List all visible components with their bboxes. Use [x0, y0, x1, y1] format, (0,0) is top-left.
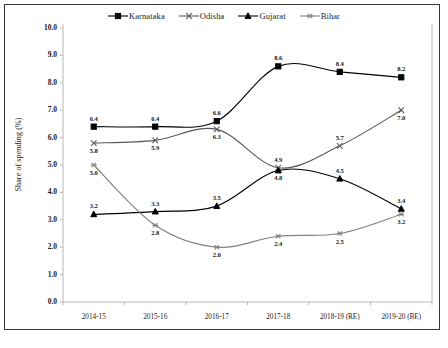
point-label-karnataka-3: 8.6 — [267, 54, 289, 61]
point-label-bihar-3: 2.4 — [267, 240, 289, 247]
y-tick-label: 9.0 — [23, 50, 57, 59]
y-tick-label: 10.0 — [23, 23, 57, 32]
data-point-odisha-5 — [398, 107, 404, 113]
point-label-karnataka-2: 6.6 — [206, 109, 228, 116]
point-label-gujarat-0: 3.2 — [83, 202, 105, 209]
y-tick-label: 6.0 — [23, 133, 57, 142]
y-tick-label: 7.0 — [23, 105, 57, 114]
point-label-bihar-1: 2.8 — [144, 229, 166, 236]
series-gujarat — [91, 167, 405, 216]
y-tick-label: 5.0 — [23, 160, 57, 169]
plot-area — [0, 0, 448, 348]
point-label-odisha-3: 4.9 — [267, 156, 289, 163]
point-label-odisha-4: 5.7 — [329, 134, 351, 141]
data-point-karnataka-1 — [153, 124, 158, 129]
point-label-bihar-4: 2.5 — [329, 238, 351, 245]
point-label-karnataka-5: 8.2 — [390, 65, 412, 72]
chart-figure: KarnatakaOdishaGujaratBihar Share of spe… — [0, 0, 448, 348]
series-line-bihar — [94, 165, 402, 247]
series-line-gujarat — [94, 169, 402, 214]
point-label-bihar-0: 5.0 — [83, 169, 105, 176]
point-label-bihar-2: 2.0 — [206, 251, 228, 258]
point-label-odisha-2: 6.3 — [206, 133, 228, 140]
data-point-bihar-3 — [275, 234, 281, 238]
data-point-karnataka-5 — [399, 75, 404, 80]
y-tick-label: 3.0 — [23, 215, 57, 224]
series-karnataka — [91, 63, 404, 129]
point-label-gujarat-4: 4.5 — [329, 167, 351, 174]
point-label-odisha-5: 7.0 — [390, 114, 412, 121]
point-label-gujarat-1: 3.3 — [144, 200, 166, 207]
point-label-gujarat-3: 4.8 — [267, 174, 289, 181]
y-tick-label: 8.0 — [23, 78, 57, 87]
series-line-karnataka — [94, 63, 402, 127]
y-tick-label: 4.0 — [23, 187, 57, 196]
point-label-gujarat-5: 3.4 — [390, 197, 412, 204]
data-point-bihar-1 — [152, 223, 158, 227]
series-line-odisha — [94, 110, 402, 168]
point-label-karnataka-4: 8.4 — [329, 60, 351, 67]
data-point-karnataka-2 — [214, 119, 219, 124]
data-point-karnataka-4 — [337, 69, 342, 74]
point-label-karnataka-1: 6.4 — [144, 115, 166, 122]
y-tick-label: 0.0 — [23, 297, 57, 306]
series-odisha — [91, 107, 404, 170]
data-point-bihar-5 — [398, 212, 404, 216]
point-label-bihar-5: 3.2 — [390, 218, 412, 225]
x-tick-label: 2019-20 (BE) — [361, 313, 441, 321]
data-point-karnataka-3 — [276, 64, 281, 69]
point-label-odisha-1: 5.9 — [144, 144, 166, 151]
y-tick-label: 2.0 — [23, 242, 57, 251]
data-point-karnataka-0 — [91, 124, 96, 129]
point-label-karnataka-0: 6.4 — [83, 115, 105, 122]
data-point-gujarat-5 — [398, 206, 404, 212]
data-point-bihar-4 — [337, 231, 343, 235]
data-point-bihar-2 — [214, 245, 220, 249]
y-tick-label: 1.0 — [23, 270, 57, 279]
series-bihar — [91, 163, 405, 249]
point-label-gujarat-2: 3.5 — [206, 194, 228, 201]
figure-caption — [6, 338, 442, 348]
point-label-odisha-0: 5.8 — [83, 147, 105, 154]
data-point-odisha-4 — [337, 143, 343, 149]
data-point-bihar-0 — [91, 163, 97, 167]
